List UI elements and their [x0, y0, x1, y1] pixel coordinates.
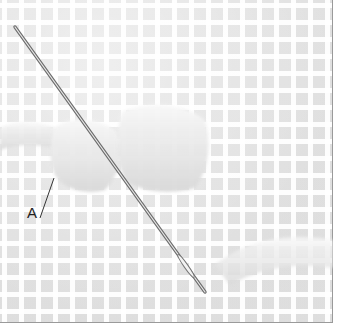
label-a-leader-line	[40, 178, 54, 218]
illustration-overlay	[0, 0, 333, 323]
yarn-stitch-right	[117, 105, 208, 192]
callout-label-a: A	[27, 204, 37, 221]
yarn-stitch-left	[50, 120, 120, 192]
yarn-strand-right	[215, 237, 333, 285]
